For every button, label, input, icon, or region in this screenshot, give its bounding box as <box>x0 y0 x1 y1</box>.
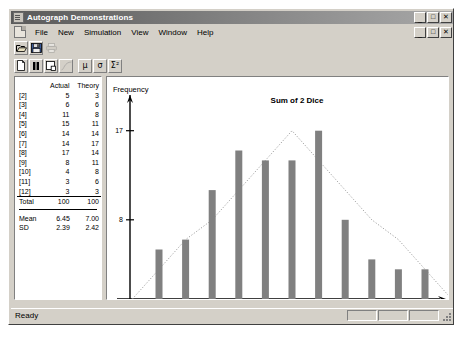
open-icon[interactable] <box>14 41 28 55</box>
row-label: [7] <box>17 139 42 149</box>
table-row: [2] 5 3 <box>17 91 101 101</box>
summary-label: Mean <box>17 214 43 224</box>
table-row: [6] 14 14 <box>17 129 101 139</box>
status-pane-3 <box>409 310 439 321</box>
bar <box>342 220 349 299</box>
minimize-icon: _ <box>415 14 425 23</box>
cell-theory: 11 <box>71 119 101 129</box>
print-icon[interactable] <box>44 41 58 55</box>
mdi-minimize-button[interactable]: _ <box>414 27 426 38</box>
file-toolbar <box>11 40 453 56</box>
y-tick-label: 8 <box>119 216 123 223</box>
window-icon[interactable] <box>44 59 58 73</box>
cell-actual: 3 <box>42 187 71 197</box>
window-controls-mdi: _ □ ✕ <box>414 27 452 38</box>
application-window: Autograph Demonstrations _ □ ✕ File New … <box>8 8 454 325</box>
app-window-icon <box>13 12 24 23</box>
table-row: [10] 4 8 <box>17 167 101 177</box>
cell-actual: 6 <box>42 100 71 110</box>
curve-icon[interactable] <box>59 59 73 73</box>
summary-row-mean: Mean 6.45 7.00 <box>17 214 101 224</box>
summary-actual: 2.39 <box>43 223 72 233</box>
cell-theory: 6 <box>71 177 101 187</box>
sigma-icon[interactable]: σ <box>93 59 107 73</box>
menu-item-file[interactable]: File <box>30 27 53 38</box>
close-icon: ✕ <box>441 27 451 36</box>
title-bar: Autograph Demonstrations _ □ ✕ <box>11 11 453 24</box>
save-icon[interactable] <box>29 41 43 55</box>
table-header-row: Actual Theory <box>17 81 101 91</box>
panel-divider <box>19 209 97 210</box>
close-button[interactable]: ✕ <box>440 12 452 23</box>
row-label: [3] <box>17 100 42 110</box>
cell-theory: 14 <box>71 129 101 139</box>
cell-actual: 15 <box>42 119 71 129</box>
statistics-panel[interactable]: Actual Theory [2] 5 3 [3] 6 6 [4] 11 8 <box>14 76 102 300</box>
cell-theory: 17 <box>71 139 101 149</box>
cell-theory: 3 <box>71 187 101 197</box>
row-label: [9] <box>17 158 42 168</box>
minimize-button[interactable]: _ <box>414 12 426 23</box>
bar <box>395 269 402 299</box>
table-row: [8] 17 14 <box>17 148 101 158</box>
cell-theory: 11 <box>71 158 101 168</box>
new-page-icon[interactable] <box>14 59 28 73</box>
row-label: [12] <box>17 187 42 197</box>
bar <box>422 269 429 299</box>
status-bar: Ready <box>11 308 453 322</box>
bar <box>182 240 189 299</box>
menu-item-simulation[interactable]: Simulation <box>79 27 126 38</box>
y-axis-ticks: 817 <box>115 127 134 223</box>
mdi-restore-button[interactable]: □ <box>427 27 439 38</box>
chi-squared-icon[interactable]: Σ² <box>108 59 122 73</box>
restore-icon: □ <box>428 27 438 36</box>
axes <box>117 95 446 299</box>
menu-item-view[interactable]: View <box>126 27 153 38</box>
menu-item-new[interactable]: New <box>53 27 79 38</box>
client-area: Actual Theory [2] 5 3 [3] 6 6 [4] 11 8 <box>11 75 453 307</box>
pause-icon[interactable] <box>29 59 43 73</box>
chart-title: Sum of 2 Dice <box>271 96 324 105</box>
graph-panel[interactable]: Sum of 2 Dice Frequency 817 234567891011… <box>106 76 449 300</box>
histogram-chart: Sum of 2 Dice Frequency 817 234567891011… <box>107 77 448 299</box>
total-theory: 100 <box>71 197 101 207</box>
table-row: [5] 15 11 <box>17 119 101 129</box>
cell-theory: 3 <box>71 91 101 101</box>
close-icon: ✕ <box>441 12 451 21</box>
mean-icon[interactable]: μ <box>78 59 92 73</box>
status-pane-1 <box>347 310 377 321</box>
bar <box>235 151 242 300</box>
summary-theory: 2.42 <box>72 223 101 233</box>
menu-item-help[interactable]: Help <box>192 27 218 38</box>
document-icon[interactable] <box>14 26 26 38</box>
row-label: [2] <box>17 91 42 101</box>
cell-actual: 8 <box>42 158 71 168</box>
table-row: [4] 11 8 <box>17 110 101 120</box>
frequency-bars <box>156 131 429 299</box>
simulation-toolbar: μ σ Σ² <box>11 57 453 74</box>
maximize-button[interactable]: □ <box>427 12 439 23</box>
total-actual: 100 <box>42 197 71 207</box>
cell-actual: 14 <box>42 129 71 139</box>
menu-item-window[interactable]: Window <box>153 27 191 38</box>
table-row: [3] 6 6 <box>17 100 101 110</box>
cell-actual: 17 <box>42 148 71 158</box>
cell-theory: 8 <box>71 110 101 120</box>
row-label: [4] <box>17 110 42 120</box>
status-text: Ready <box>11 311 347 320</box>
cell-theory: 8 <box>71 167 101 177</box>
row-label: [10] <box>17 167 42 177</box>
col-header-actual: Actual <box>42 81 71 91</box>
menu-bar: File New Simulation View Window Help _ □… <box>11 25 453 39</box>
bar <box>368 259 375 299</box>
resize-grip[interactable] <box>440 310 452 322</box>
bar <box>262 160 269 299</box>
maximize-icon: □ <box>428 12 438 21</box>
mdi-close-button[interactable]: ✕ <box>440 27 452 38</box>
table-row: [7] 14 17 <box>17 139 101 149</box>
cell-theory: 6 <box>71 100 101 110</box>
window-controls-outer: _ □ ✕ <box>414 12 452 23</box>
summary-row-sd: SD 2.39 2.42 <box>17 223 101 233</box>
row-label: [6] <box>17 129 42 139</box>
minimize-icon: _ <box>415 29 425 38</box>
